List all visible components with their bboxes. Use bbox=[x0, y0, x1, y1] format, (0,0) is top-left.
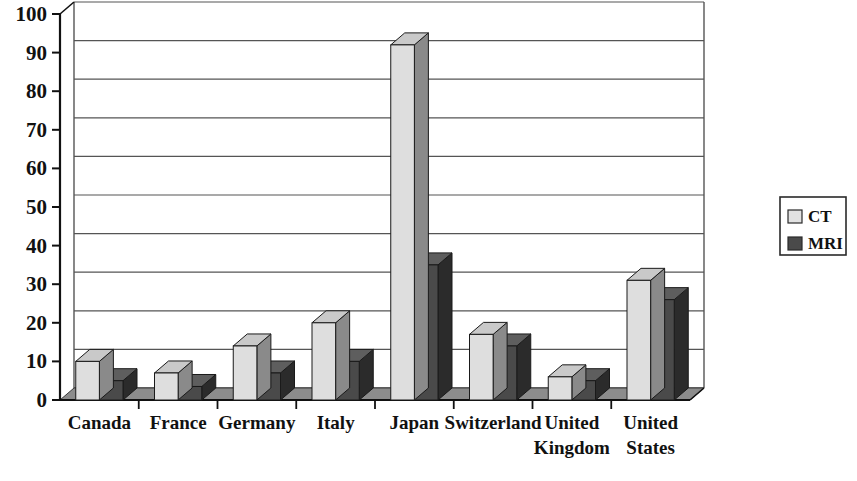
x-axis-tick-label: France bbox=[150, 412, 207, 433]
bar-chart: 0102030405060708090100 CanadaFranceGerma… bbox=[0, 0, 857, 481]
y-axis-tick-label: 100 bbox=[16, 2, 48, 26]
y-axis-tick-label: 90 bbox=[26, 41, 47, 65]
bar-ct-japan bbox=[391, 33, 429, 400]
legend-label-mri: MRI bbox=[808, 234, 843, 253]
y-axis-tick-label: 50 bbox=[26, 195, 47, 219]
x-axis-tick-label: Japan bbox=[390, 412, 440, 433]
bar-chart-container: 0102030405060708090100 CanadaFranceGerma… bbox=[0, 0, 857, 481]
y-axis-tick-label: 30 bbox=[26, 272, 47, 296]
x-axis-tick-label: United bbox=[544, 412, 599, 433]
x-axis-tick-label: Canada bbox=[68, 412, 132, 433]
legend-label-ct: CT bbox=[808, 207, 832, 226]
legend-swatch-mri bbox=[788, 237, 802, 250]
x-axis-tick-label: Italy bbox=[317, 412, 356, 433]
x-axis-tick-label: States bbox=[626, 437, 675, 458]
bar-ct-canada bbox=[76, 349, 114, 400]
y-axis-tick-label: 80 bbox=[26, 79, 47, 103]
y-axis-tick-label: 0 bbox=[37, 388, 48, 412]
x-axis-tick-label: United bbox=[623, 412, 678, 433]
bar-ct-united-states bbox=[627, 268, 665, 400]
bar-ct-switzerland bbox=[470, 322, 508, 400]
bar-ct-germany bbox=[233, 334, 271, 400]
legend-swatch-ct bbox=[788, 210, 802, 223]
y-axis-tick-label: 20 bbox=[26, 311, 47, 335]
y-axis-tick-label: 40 bbox=[26, 234, 47, 258]
y-axis-tick-label: 60 bbox=[26, 156, 47, 180]
x-axis-tick-label: Kingdom bbox=[534, 437, 610, 458]
y-axis-tick-label: 10 bbox=[26, 349, 47, 373]
x-axis-tick-label: Switzerland bbox=[445, 412, 543, 433]
x-axis-tick-label: Germany bbox=[218, 412, 296, 433]
chart-legend: CTMRI bbox=[780, 197, 846, 255]
y-axis-tick-label: 70 bbox=[26, 118, 47, 142]
bar-ct-italy bbox=[312, 311, 350, 400]
